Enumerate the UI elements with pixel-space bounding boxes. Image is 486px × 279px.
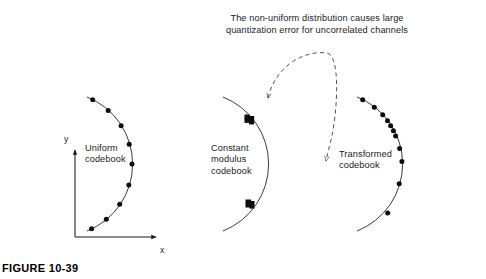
- y-axis-label: y: [64, 134, 68, 144]
- dashed-transform-connector: [268, 53, 337, 161]
- label-uniform-codebook: Uniform codebook: [85, 143, 126, 166]
- label-transformed-codebook: Transformed codebook: [339, 149, 392, 172]
- label-constant-modulus-codebook: Constant modulus codebook: [211, 143, 252, 177]
- x-axis-label: x: [160, 245, 164, 255]
- figure-caption: FIGURE 10-39: [2, 262, 78, 274]
- dashed-connector-path: [268, 53, 337, 161]
- figure-container: The non-uniform distribution causes larg…: [0, 0, 486, 279]
- figure-vector-canvas: [0, 0, 486, 279]
- annotation-text: The non-uniform distribution causes larg…: [192, 13, 442, 36]
